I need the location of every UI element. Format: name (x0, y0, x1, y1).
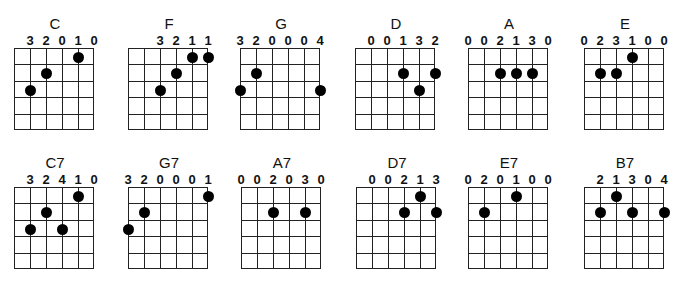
finger-dot (414, 85, 425, 96)
fingering-row: 023100 (584, 34, 684, 48)
finger-number: 1 (509, 34, 523, 48)
finger-number: 2 (493, 34, 507, 48)
string-line (403, 49, 404, 129)
fret-line (469, 114, 547, 115)
finger-dot (73, 191, 84, 202)
chord-name: E7 (468, 155, 550, 171)
finger-number: 2 (39, 173, 53, 187)
fret-line (356, 81, 434, 82)
finger-number: 0 (461, 173, 475, 187)
fret-line (129, 114, 207, 115)
finger-number: 2 (137, 173, 151, 187)
fret-line (15, 220, 93, 221)
finger-dot (595, 207, 606, 218)
finger-dot (315, 85, 326, 96)
string-line (288, 49, 289, 129)
fretboard-grid (584, 187, 664, 269)
finger-number: 0 (281, 34, 295, 48)
string-line (648, 188, 649, 268)
finger-number: 0 (87, 173, 101, 187)
finger-number: 4 (55, 173, 69, 187)
chord-name: C (14, 16, 96, 32)
finger-number: 0 (234, 173, 248, 187)
fretboard-grid (468, 48, 548, 130)
finger-number: 0 (525, 173, 539, 187)
finger-number: 1 (413, 173, 427, 187)
finger-number: 3 (609, 34, 623, 48)
fret-line (242, 220, 320, 221)
fret-line (15, 97, 93, 98)
fret-line (15, 236, 93, 237)
finger-number: 2 (428, 34, 442, 48)
finger-number: 0 (381, 173, 395, 187)
fret-line (241, 114, 319, 115)
string-line (256, 49, 257, 129)
fret-line (469, 97, 547, 98)
chord-g7: G7320001 (128, 155, 224, 282)
chord-name: E (584, 16, 666, 32)
fingering-row: 002130 (468, 34, 568, 48)
fret-line (242, 253, 320, 254)
finger-dot (251, 68, 262, 79)
finger-number: 2 (593, 34, 607, 48)
finger-dot (611, 191, 622, 202)
finger-number: 3 (153, 34, 167, 48)
string-line (600, 49, 601, 129)
finger-dot (511, 191, 522, 202)
finger-number: 0 (641, 173, 655, 187)
fret-line (357, 203, 435, 204)
string-line (404, 188, 405, 268)
finger-number: 3 (233, 34, 247, 48)
finger-number: 3 (625, 173, 639, 187)
string-line (632, 188, 633, 268)
fret-line (129, 97, 207, 98)
finger-dot (300, 207, 311, 218)
chord-name: G (240, 16, 322, 32)
fretboard-grid (14, 187, 94, 269)
finger-dot (415, 191, 426, 202)
string-line (532, 49, 533, 129)
fingering-row: 21304 (584, 173, 684, 187)
fretboard-grid (355, 48, 435, 130)
finger-number: 0 (282, 173, 296, 187)
finger-number: 0 (541, 173, 555, 187)
fingering-row: 3211 (128, 34, 228, 48)
fingering-row: 002030 (241, 173, 341, 187)
fret-line (129, 253, 207, 254)
finger-dot (611, 68, 622, 79)
finger-number: 0 (265, 34, 279, 48)
finger-dot (25, 85, 36, 96)
fret-line (469, 253, 547, 254)
finger-dot (171, 68, 182, 79)
fingering-row: 00213 (356, 173, 456, 187)
finger-number: 0 (314, 173, 328, 187)
finger-number: 3 (429, 173, 443, 187)
finger-dot (511, 68, 522, 79)
fret-line (241, 64, 319, 65)
finger-dot (659, 207, 670, 218)
fingering-row: 020100 (468, 173, 568, 187)
fret-line (585, 97, 663, 98)
finger-dot (123, 224, 134, 235)
chord-b7: B721304 (584, 155, 680, 282)
finger-dot (479, 207, 490, 218)
finger-dot (57, 224, 68, 235)
finger-number: 0 (364, 34, 378, 48)
finger-number: 0 (297, 34, 311, 48)
string-line (500, 49, 501, 129)
string-line (46, 49, 47, 129)
string-line (387, 49, 388, 129)
fret-line (585, 220, 663, 221)
fret-line (469, 236, 547, 237)
chord-g: G320004 (240, 16, 336, 146)
fret-line (241, 97, 319, 98)
fret-line (469, 220, 547, 221)
finger-dot (155, 85, 166, 96)
fret-line (15, 253, 93, 254)
chord-c: C32010 (14, 16, 110, 146)
fret-line (585, 236, 663, 237)
chord-name: D7 (356, 155, 438, 171)
finger-number: 2 (593, 173, 607, 187)
string-line (305, 188, 306, 268)
string-line (484, 188, 485, 268)
